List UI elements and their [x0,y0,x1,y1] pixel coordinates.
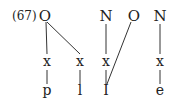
onset-node-1: O [39,7,51,25]
example-number: (67) [12,9,37,23]
segment-I: I [103,82,109,98]
segment-p: p [43,82,52,98]
autosegmental-diagram: (67) O N O N x x x x p l I e [0,0,173,103]
onset-node-2: O [128,7,140,25]
skeletal-x-2: x [76,53,84,69]
segment-e: e [156,82,164,98]
skeletal-x-3: x [102,53,110,69]
skeletal-x-4: x [156,53,164,69]
skeletal-x-1: x [43,53,51,69]
nucleus-node-2: N [153,7,166,25]
nucleus-node-1: N [99,7,112,25]
segment-l: l [78,82,83,98]
